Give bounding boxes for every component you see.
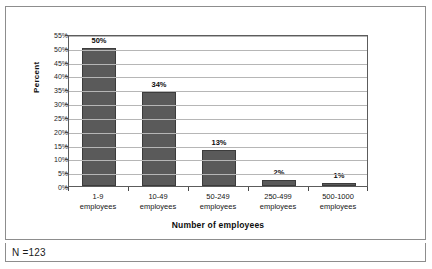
plot-area: 50%34%13%2%1% bbox=[68, 35, 368, 187]
gridline bbox=[69, 64, 367, 65]
x-axis-tick-mark bbox=[367, 187, 368, 191]
trailing-glyph bbox=[6, 263, 26, 269]
bar-value-label: 2% bbox=[274, 168, 285, 177]
bar bbox=[82, 48, 116, 186]
x-axis-title: Number of employees bbox=[68, 220, 368, 230]
x-axis-tick-mark bbox=[128, 187, 129, 191]
bar-group: 1% bbox=[309, 36, 369, 186]
clipped-caption bbox=[0, 0, 432, 4]
x-axis-tick-mark bbox=[308, 187, 309, 191]
x-axis-tick-mark bbox=[188, 187, 189, 191]
bar bbox=[142, 92, 176, 186]
x-axis-category-labels: 1-9employees10-49employees50-249employee… bbox=[68, 192, 368, 218]
x-axis-tick-mark bbox=[68, 187, 69, 191]
figure-footer: N =123 bbox=[5, 243, 426, 262]
x-axis-category-label: 50-249employees bbox=[188, 192, 248, 212]
gridline bbox=[69, 119, 367, 120]
gridline bbox=[69, 50, 367, 51]
bar-value-label: 1% bbox=[334, 171, 345, 180]
bar-value-label: 50% bbox=[91, 36, 106, 45]
y-axis-ticks: 0%5%10%15%20%25%30%35%40%45%50%55% bbox=[40, 35, 68, 187]
x-axis-category-label: 500-1000employees bbox=[308, 192, 368, 212]
bar bbox=[322, 183, 356, 186]
bar-group: 13% bbox=[189, 36, 249, 186]
bars-layer: 50%34%13%2%1% bbox=[69, 36, 367, 186]
sample-size-note: N =123 bbox=[6, 247, 46, 258]
bar-chart: Percent 0%5%10%15%20%25%30%35%40%45%50%5… bbox=[6, 7, 425, 239]
gridline bbox=[69, 133, 367, 134]
x-axis-category-label: 10-49employees bbox=[128, 192, 188, 212]
gridline bbox=[69, 160, 367, 161]
bar-group: 34% bbox=[129, 36, 189, 186]
bar bbox=[202, 150, 236, 186]
x-axis-category-label: 250-499employees bbox=[248, 192, 308, 212]
bar-group: 2% bbox=[249, 36, 309, 186]
gridline bbox=[69, 174, 367, 175]
figure-frame: Percent 0%5%10%15%20%25%30%35%40%45%50%5… bbox=[5, 6, 426, 240]
gridline bbox=[69, 105, 367, 106]
x-axis-tick-mark bbox=[248, 187, 249, 191]
x-axis-category-label: 1-9employees bbox=[68, 192, 128, 212]
bar-value-label: 34% bbox=[151, 80, 166, 89]
gridline bbox=[69, 77, 367, 78]
gridline bbox=[69, 147, 367, 148]
gridline bbox=[69, 36, 367, 37]
gridline bbox=[69, 91, 367, 92]
bar-group: 50% bbox=[69, 36, 129, 186]
bar bbox=[262, 180, 296, 186]
